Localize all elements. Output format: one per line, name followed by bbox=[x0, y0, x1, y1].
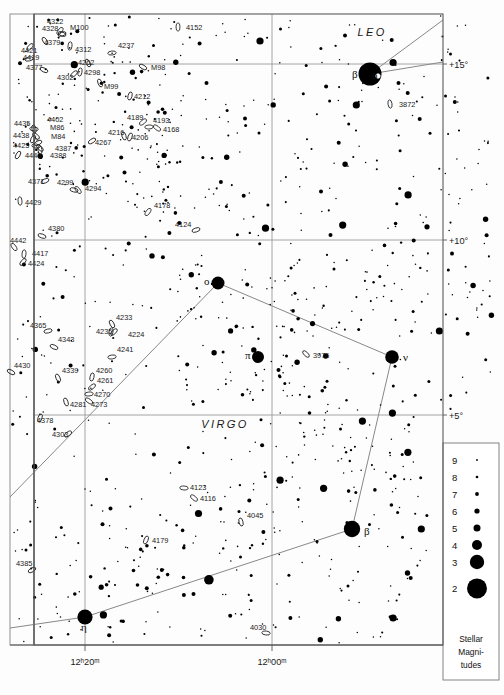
field-star bbox=[279, 554, 281, 556]
field-star bbox=[56, 573, 58, 575]
field-star bbox=[338, 100, 340, 102]
field-star bbox=[418, 525, 425, 532]
field-star bbox=[77, 542, 79, 544]
field-star bbox=[163, 111, 167, 115]
field-star bbox=[476, 307, 478, 309]
field-star bbox=[449, 394, 452, 397]
field-star bbox=[440, 189, 442, 191]
field-star bbox=[308, 395, 311, 398]
galaxy-label: 4261 bbox=[97, 376, 113, 385]
field-star bbox=[185, 362, 189, 366]
field-star bbox=[352, 580, 354, 582]
field-star bbox=[489, 295, 491, 297]
field-star bbox=[88, 420, 90, 422]
field-star bbox=[227, 134, 229, 136]
field-star bbox=[445, 313, 447, 315]
field-star bbox=[187, 310, 189, 312]
field-star bbox=[421, 301, 423, 303]
galaxy-label: 4267 bbox=[95, 138, 111, 147]
field-star bbox=[130, 125, 134, 129]
field-star bbox=[486, 184, 488, 186]
field-star bbox=[37, 618, 39, 620]
field-star bbox=[109, 525, 111, 527]
field-star bbox=[35, 500, 37, 502]
field-star bbox=[25, 43, 27, 45]
field-star bbox=[36, 26, 38, 28]
field-star bbox=[275, 626, 277, 628]
field-star bbox=[41, 354, 43, 356]
field-star bbox=[84, 388, 86, 390]
field-star bbox=[302, 521, 304, 523]
galaxy-label: 4442 bbox=[10, 236, 26, 245]
galaxy-label: 4281 bbox=[70, 400, 86, 409]
chart-background bbox=[0, 0, 504, 695]
field-star bbox=[112, 254, 114, 256]
field-star bbox=[82, 364, 84, 366]
named-star-label: η bbox=[81, 621, 87, 633]
field-star bbox=[390, 614, 397, 621]
field-star bbox=[412, 115, 414, 117]
field-star bbox=[105, 478, 108, 481]
field-star bbox=[173, 21, 175, 23]
field-star bbox=[396, 599, 398, 601]
field-star bbox=[22, 356, 24, 358]
field-star bbox=[172, 109, 174, 111]
field-star bbox=[257, 338, 259, 340]
field-star bbox=[345, 399, 347, 401]
field-star bbox=[22, 324, 24, 326]
field-star bbox=[346, 259, 348, 261]
legend-magnitude-dot bbox=[474, 508, 479, 513]
field-star bbox=[243, 116, 247, 120]
field-star bbox=[238, 510, 241, 513]
field-star bbox=[276, 487, 278, 489]
field-star bbox=[61, 295, 65, 299]
field-star bbox=[167, 186, 169, 188]
field-star bbox=[354, 24, 356, 26]
field-star bbox=[298, 259, 300, 261]
field-star bbox=[258, 235, 260, 237]
field-star bbox=[252, 216, 254, 218]
field-star bbox=[424, 224, 429, 229]
field-star bbox=[186, 384, 188, 386]
field-star bbox=[341, 424, 343, 426]
field-star bbox=[180, 279, 182, 281]
field-star bbox=[336, 616, 341, 621]
field-star bbox=[112, 62, 114, 64]
legend-magnitude-dot bbox=[476, 459, 478, 461]
field-star bbox=[40, 316, 42, 318]
field-star bbox=[205, 196, 207, 198]
field-star bbox=[199, 296, 201, 298]
field-star bbox=[57, 613, 59, 615]
field-star bbox=[431, 332, 433, 334]
field-star bbox=[338, 408, 340, 410]
field-star bbox=[427, 380, 430, 383]
field-star bbox=[373, 488, 377, 492]
field-star bbox=[176, 161, 178, 163]
field-star bbox=[249, 547, 251, 549]
field-star bbox=[109, 506, 113, 510]
field-star bbox=[244, 124, 247, 127]
field-star bbox=[297, 299, 299, 301]
field-star bbox=[237, 546, 239, 548]
field-star bbox=[156, 110, 160, 114]
field-star bbox=[229, 210, 231, 212]
galaxy-label: 4206 bbox=[132, 133, 148, 142]
field-star bbox=[146, 114, 148, 116]
field-star bbox=[42, 230, 44, 232]
field-star bbox=[180, 195, 182, 197]
field-star bbox=[146, 248, 148, 250]
field-star bbox=[74, 78, 76, 80]
field-star bbox=[21, 549, 23, 551]
field-star bbox=[297, 157, 299, 159]
field-star bbox=[159, 181, 161, 183]
field-star bbox=[104, 613, 106, 615]
star-chart-canvas: βoοπνβη 415243224328M1004379431244214419… bbox=[0, 0, 504, 695]
field-star bbox=[274, 301, 276, 303]
field-star bbox=[395, 488, 397, 490]
field-star bbox=[121, 619, 125, 623]
field-star bbox=[89, 180, 91, 182]
field-star bbox=[280, 180, 282, 182]
field-star bbox=[266, 37, 268, 39]
field-star bbox=[182, 95, 184, 97]
galaxy-label: 4273 bbox=[91, 400, 107, 409]
